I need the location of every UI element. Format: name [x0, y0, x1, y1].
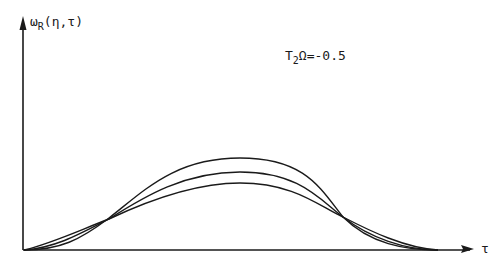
parameter-annotation: T2Ω=-0.5 — [285, 48, 346, 63]
annotation-main: T — [285, 48, 293, 63]
curve-lowest-peak — [24, 183, 438, 250]
y-axis-label: ωR(η,τ) — [30, 14, 83, 29]
plot — [0, 0, 503, 264]
x-axis-label: τ — [481, 241, 489, 256]
annotation-sub: 2 — [293, 55, 299, 66]
y-axis-arrow-icon — [20, 16, 27, 30]
x-axis-arrow-icon — [461, 245, 474, 253]
y-label-rest: (η,τ) — [44, 14, 83, 29]
y-label-sub: R — [38, 21, 44, 32]
annotation-rest: Ω=-0.5 — [299, 48, 346, 63]
y-label-main: ω — [30, 14, 38, 29]
